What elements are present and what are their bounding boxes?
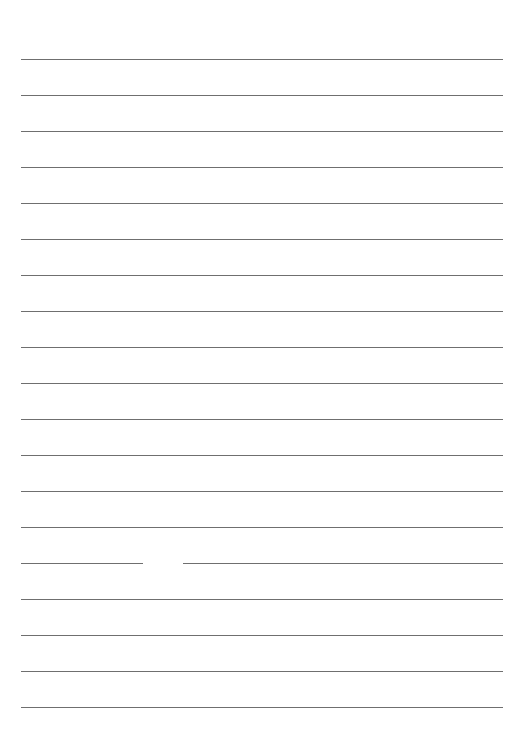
ruled-line xyxy=(21,419,503,420)
ruled-line xyxy=(21,599,503,600)
ruled-line xyxy=(21,59,503,60)
ruled-line xyxy=(21,311,503,312)
ruled-line xyxy=(21,131,503,132)
ruled-line xyxy=(21,707,503,708)
ruled-line xyxy=(21,491,503,492)
ruled-line xyxy=(21,167,503,168)
ruled-line xyxy=(21,455,503,456)
ruled-line xyxy=(21,275,503,276)
ruled-line xyxy=(21,239,503,240)
ruled-line xyxy=(21,671,503,672)
ruled-line xyxy=(21,95,503,96)
ruled-line xyxy=(21,635,503,636)
ruled-line xyxy=(21,203,503,204)
ruled-line xyxy=(21,347,503,348)
ruled-line xyxy=(21,527,503,528)
ruled-line xyxy=(21,563,503,564)
ruled-line xyxy=(21,383,503,384)
line-gap xyxy=(143,562,183,565)
